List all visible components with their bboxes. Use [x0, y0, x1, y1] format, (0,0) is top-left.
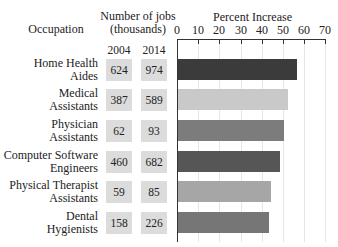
x-tick-label: 50: [273, 23, 293, 38]
occupation-label-line2: Assistants: [0, 192, 98, 205]
x-tick-label: 20: [209, 23, 229, 38]
occupation-label: Home HealthAides: [0, 57, 98, 83]
percent-bar: [178, 89, 288, 110]
occupation-label: MedicalAssistants: [0, 87, 98, 113]
gridline: [325, 44, 326, 242]
percent-bar: [178, 59, 297, 80]
occupation-label-line2: Assistants: [0, 100, 98, 113]
occupation-label-line2: Engineers: [0, 162, 98, 175]
jobs-2014-cell: 589: [141, 89, 167, 111]
occupation-header: Occupation: [12, 22, 100, 37]
x-tick-label: 30: [231, 23, 251, 38]
x-tick-label: 70: [315, 23, 335, 38]
jobs-2004-cell: 387: [106, 89, 132, 111]
jobs-2014-cell: 93: [141, 120, 167, 142]
jobs-2004-cell: 62: [106, 120, 132, 142]
occupation-label-line2: Aides: [0, 70, 98, 83]
jobs-2014-cell: 85: [141, 181, 167, 203]
percent-bar: [178, 181, 271, 202]
occupation-label: PhysicianAssistants: [0, 118, 98, 144]
jobs-2004-cell: 158: [106, 212, 132, 234]
percent-bar: [178, 151, 280, 172]
occupation-label: DentalHygienists: [0, 210, 98, 236]
jobs-2014-cell: 974: [141, 59, 167, 81]
gridline: [304, 44, 305, 242]
year-2014-header: 2014: [141, 44, 167, 56]
jobs-2004-cell: 59: [106, 181, 132, 203]
occupation-label-line2: Assistants: [0, 131, 98, 144]
percent-bar: [178, 212, 269, 233]
jobs-header: Number of jobs (thousands): [98, 10, 178, 36]
jobs-2004-cell: 460: [106, 151, 132, 173]
x-tick-label: 40: [252, 23, 272, 38]
x-tick-label: 0: [167, 23, 187, 38]
percent-bar: [178, 120, 284, 141]
occupation-label-line2: Hygienists: [0, 223, 98, 236]
jobs-2014-cell: 226: [141, 212, 167, 234]
x-tick-label: 10: [188, 23, 208, 38]
x-tick-label: 60: [294, 23, 314, 38]
occupation-label: Computer SoftwareEngineers: [0, 149, 98, 175]
jobs-header-line2: (thousands): [98, 23, 178, 36]
year-2004-header: 2004: [106, 44, 132, 56]
jobs-2014-cell: 682: [141, 151, 167, 173]
occupation-label: Physical TherapistAssistants: [0, 179, 98, 205]
jobs-2004-cell: 624: [106, 59, 132, 81]
